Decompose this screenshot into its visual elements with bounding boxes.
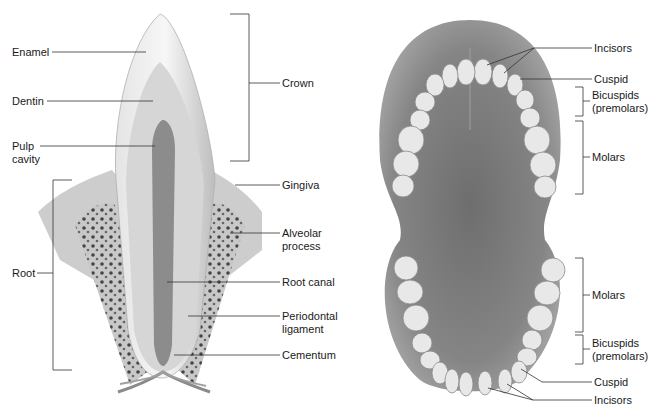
label-lower-molars: Molars: [592, 289, 625, 302]
label-gingiva: Gingiva: [282, 179, 319, 192]
label-pulp-cavity-line2: cavity: [12, 153, 40, 166]
label-root: Root: [12, 267, 35, 280]
label-lower-incisors: Incisors: [594, 394, 632, 407]
label-dentin: Dentin: [12, 95, 44, 108]
label-periodontal-line2: ligament: [282, 323, 324, 336]
label-cementum: Cementum: [282, 349, 336, 362]
label-lower-bicuspids-line1: Bicuspids: [592, 337, 639, 350]
pulp-shape: [152, 120, 175, 366]
label-upper-bicuspids-line1: Bicuspids: [592, 89, 639, 102]
label-crown: Crown: [282, 77, 314, 90]
label-alveolar-line1: Alveolar: [282, 227, 322, 240]
label-upper-molars: Molars: [592, 151, 625, 164]
label-upper-cuspid: Cuspid: [594, 73, 628, 86]
label-upper-bicuspids-line2: (premolars): [592, 102, 648, 115]
label-root-canal: Root canal: [282, 276, 335, 289]
label-alveolar-line2: process: [282, 240, 321, 253]
anatomy-figure: Enamel Dentin Pulp cavity Root Crown Gin…: [0, 0, 665, 417]
label-lower-cuspid: Cuspid: [594, 376, 628, 389]
label-pulp-cavity-line1: Pulp: [12, 140, 34, 153]
label-enamel: Enamel: [12, 46, 49, 59]
label-periodontal-line1: Periodontal: [282, 310, 338, 323]
label-lower-bicuspids-line2: (premolars): [592, 350, 648, 363]
label-upper-incisors: Incisors: [594, 42, 632, 55]
